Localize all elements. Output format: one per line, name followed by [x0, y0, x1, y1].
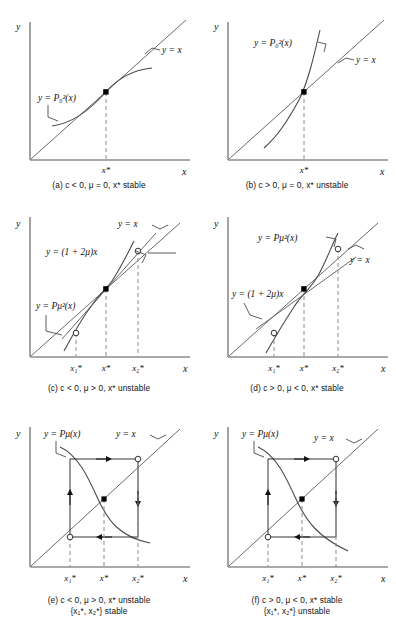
- leader-line-identity: [152, 225, 168, 229]
- fixed-point-x1: [271, 330, 277, 336]
- fixed-point-x2: [335, 246, 341, 252]
- panel-c: y x x₁* x* x₂* y = x y = (1 + 2μ)x: [0, 205, 198, 394]
- leader-line-tangent: [244, 303, 262, 319]
- y-axis-label: y: [213, 21, 219, 32]
- panel-b-plot: y x x* y = x y = P₀²(x): [198, 8, 396, 180]
- label-identity-line: y = x: [355, 55, 376, 65]
- x-axis-label: x: [380, 363, 386, 374]
- fixed-point-xstar: [301, 286, 306, 291]
- leader-line-curve: [46, 315, 62, 335]
- panel-b: y x x* y = x y = P₀²(x) (b) c > 0, μ = 0…: [198, 8, 396, 191]
- panel-a: y x x* y = x y = P₀²(x) (a) c < 0, μ = 0…: [0, 8, 198, 191]
- tick-label-x1: x₁*: [261, 573, 274, 583]
- x-axis-label: x: [181, 166, 187, 177]
- label-tangent-line: y = (1 + 2μ)x: [231, 289, 284, 300]
- leader-line-curve: [326, 237, 336, 247]
- x-axis-label: x: [380, 573, 386, 584]
- fixed-point-xstar: [103, 286, 108, 291]
- tick-label-x2: x₂*: [331, 363, 344, 373]
- y-axis-label: y: [213, 428, 219, 439]
- panel-b-caption: (b) c > 0, μ = 0, x* unstable: [198, 180, 396, 191]
- tick-label-xstar: x*: [101, 165, 111, 175]
- leader-line-identity: [346, 439, 362, 443]
- fixed-point-x2: [135, 456, 141, 462]
- panel-e-plot: y x x₁* x* x₂* y: [0, 415, 198, 595]
- label-identity-line: y = x: [115, 429, 136, 439]
- tick-label-x2: x₂*: [131, 573, 144, 583]
- y-axis-label: y: [15, 218, 21, 229]
- panel-c-plot: y x x₁* x* x₂* y = x y = (1 + 2μ)x: [0, 205, 198, 383]
- tick-label-xstar: x*: [299, 165, 309, 175]
- tick-label-x2: x₂*: [329, 573, 342, 583]
- y-axis-label: y: [213, 218, 219, 229]
- tick-label-xstar: x*: [299, 363, 309, 373]
- label-map-curve: y = P₀²(x): [253, 38, 292, 49]
- panel-c-caption: (c) c < 0, μ > 0, x* unstable: [0, 383, 198, 394]
- fixed-point-xstar: [103, 89, 108, 94]
- panel-f-plot: y x x₁* x* x₂* y = Pμ(x) y = x: [198, 415, 396, 595]
- panel-d-plot: y x x₁* x* x₂* y = Pμ²(x) y = x y = (1 +…: [198, 205, 396, 383]
- leader-line-curve: [48, 105, 58, 121]
- panel-a-caption: (a) c < 0, μ = 0, x* stable: [0, 180, 198, 191]
- fixed-point-xstar: [101, 496, 106, 501]
- panel-d-caption: (d) c > 0, μ < 0, x* stable: [198, 383, 396, 394]
- leader-line-identity: [145, 48, 160, 54]
- leader-line-curve: [318, 42, 326, 52]
- label-identity-line: y = x: [313, 433, 334, 443]
- label-identity-line: y = x: [117, 219, 138, 229]
- fixed-point-x1: [73, 330, 79, 336]
- label-map-curve: y = Pμ(x): [43, 429, 81, 440]
- x-axis-label: x: [379, 166, 385, 177]
- fixed-point-xstar: [301, 89, 306, 94]
- leader-line-identity: [150, 435, 166, 439]
- tick-label-x2: x₂*: [131, 363, 144, 373]
- label-map-curve: y = P₀²(x): [37, 93, 76, 104]
- panel-a-plot: y x x* y = x y = P₀²(x): [0, 8, 198, 180]
- label-map-curve: y = Pμ(x): [241, 429, 279, 440]
- fixed-point-x1: [265, 534, 271, 540]
- fixed-point-x2: [333, 456, 339, 462]
- y-axis-label: y: [15, 21, 21, 32]
- y-axis-label: y: [15, 428, 21, 439]
- fixed-point-x1: [67, 534, 73, 540]
- tick-label-xstar: x*: [99, 573, 109, 583]
- panel-f-caption: (f) c > 0, μ < 0, x* stable {x₁*, x₂*} u…: [198, 595, 396, 617]
- panel-e-caption: (e) c < 0, μ > 0, x* unstable {x₁*, x₂*}…: [0, 595, 198, 617]
- tick-label-x1: x₁*: [69, 363, 82, 373]
- tick-label-x1: x₁*: [267, 363, 280, 373]
- figure-root: y x x* y = x y = P₀²(x) (a) c < 0, μ = 0…: [0, 0, 396, 635]
- panel-f: y x x₁* x* x₂* y = Pμ(x) y = x: [198, 415, 396, 617]
- x-axis-label: x: [182, 363, 188, 374]
- panel-d: y x x₁* x* x₂* y = Pμ²(x) y = x y = (1 +…: [198, 205, 396, 394]
- tick-label-xstar: x*: [297, 573, 307, 583]
- x-axis-label: x: [182, 573, 188, 584]
- label-tangent-line: y = (1 + 2μ)x: [45, 247, 98, 258]
- tick-label-x1: x₁*: [63, 573, 76, 583]
- label-map-curve: y = Pμ²(x): [35, 301, 75, 312]
- panel-e: y x x₁* x* x₂* y: [0, 415, 198, 617]
- fixed-point-xstar: [299, 496, 304, 501]
- label-identity-line: y = x: [349, 255, 370, 265]
- label-map-curve: y = Pμ²(x): [257, 233, 297, 244]
- label-identity-line: y = x: [161, 45, 182, 55]
- tick-label-xstar: x*: [101, 363, 111, 373]
